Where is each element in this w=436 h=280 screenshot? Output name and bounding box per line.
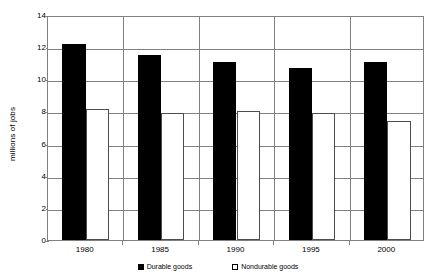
category-separator xyxy=(274,17,275,240)
gridline xyxy=(48,49,423,50)
category-separator xyxy=(123,17,124,240)
bar-durable-goods-1980 xyxy=(62,44,85,240)
bar-durable-goods-1985 xyxy=(138,55,161,240)
y-tick-label: 0 xyxy=(10,237,46,245)
bar-nondurable-goods-1985 xyxy=(161,113,184,240)
y-tick-label: 4 xyxy=(10,173,46,181)
bar-nondurable-goods-1980 xyxy=(86,109,109,240)
y-tick-mark xyxy=(46,241,49,242)
legend-entry-nondurable-goods: Nondurable goods xyxy=(232,263,298,271)
y-tick-label: 8 xyxy=(10,108,46,116)
bar-durable-goods-1995 xyxy=(289,68,312,240)
x-tick-label-1995: 1995 xyxy=(302,245,320,255)
category-separator xyxy=(199,17,200,240)
y-tick-label: 2 xyxy=(10,205,46,213)
category-separator xyxy=(350,17,351,240)
plot-area xyxy=(47,16,424,241)
y-tick-label: 10 xyxy=(10,76,46,84)
x-axis-ticks: 19801985199019952000 xyxy=(47,245,424,259)
x-tick-label-1980: 1980 xyxy=(76,245,94,255)
y-tick-label: 6 xyxy=(10,141,46,149)
x-tick-mark xyxy=(349,241,350,245)
bar-nondurable-goods-2000 xyxy=(387,121,410,240)
y-tick-label: 14 xyxy=(10,12,46,20)
legend-swatch-icon xyxy=(138,264,144,270)
chart-legend: Durable goodsNondurable goods xyxy=(0,261,436,273)
legend-swatch-icon xyxy=(232,264,238,270)
y-tick-label: 12 xyxy=(10,44,46,52)
bar-nondurable-goods-1990 xyxy=(237,111,260,240)
legend-label: Nondurable goods xyxy=(241,263,298,271)
x-tick-mark xyxy=(198,241,199,245)
bar-durable-goods-1990 xyxy=(213,62,236,240)
x-tick-label-1990: 1990 xyxy=(227,245,245,255)
bar-durable-goods-2000 xyxy=(364,62,387,240)
bar-chart: millions of jobs 02468101214 19801985199… xyxy=(0,0,436,280)
y-axis-ticks: 02468101214 xyxy=(0,16,46,241)
x-tick-mark xyxy=(122,241,123,245)
x-tick-label-2000: 2000 xyxy=(377,245,395,255)
legend-label: Durable goods xyxy=(147,263,193,271)
legend-entry-durable-goods: Durable goods xyxy=(138,263,193,271)
x-tick-mark xyxy=(273,241,274,245)
x-tick-label-1985: 1985 xyxy=(151,245,169,255)
bar-nondurable-goods-1995 xyxy=(312,113,335,240)
